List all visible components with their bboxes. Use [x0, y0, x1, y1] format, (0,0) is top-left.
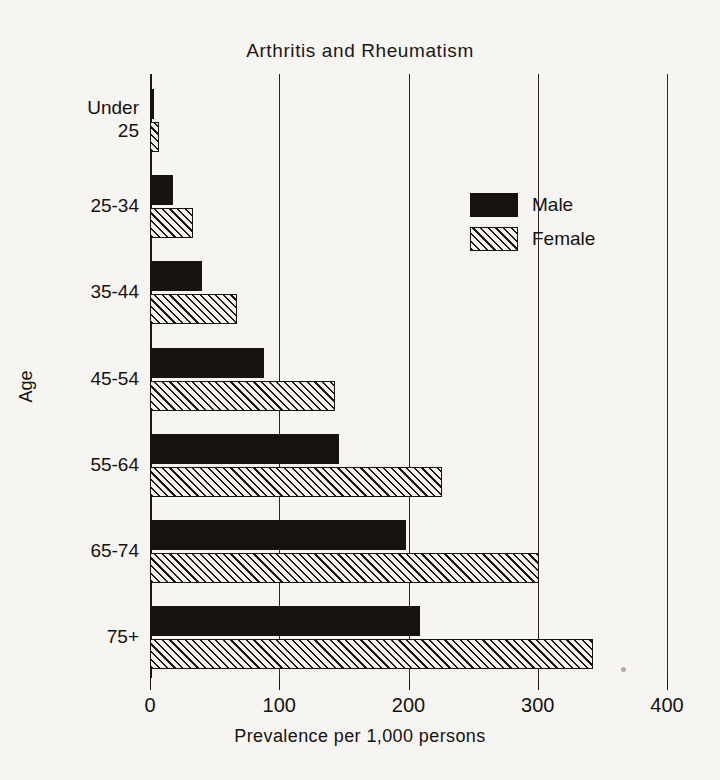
gridline	[279, 74, 280, 678]
x-tick-label: 100	[263, 694, 296, 717]
bar-male	[150, 606, 420, 636]
x-tick-label: 200	[392, 694, 425, 717]
bar-female	[150, 467, 442, 497]
legend-label-male: Male	[532, 194, 573, 216]
x-tick	[150, 678, 151, 690]
chart-legend: Male Female	[470, 190, 595, 258]
x-tick	[667, 678, 668, 690]
bar-female	[150, 208, 193, 238]
x-tick-label: 0	[144, 694, 155, 717]
x-tick	[279, 678, 280, 690]
legend-label-female: Female	[532, 228, 595, 250]
bar-male	[150, 348, 264, 378]
x-tick	[538, 678, 539, 690]
bar-female	[150, 122, 159, 152]
y-axis-label: Age	[16, 347, 37, 427]
bar-female	[150, 381, 335, 411]
bar-female	[150, 294, 237, 324]
bar-female	[150, 553, 539, 583]
legend-swatch-female-icon	[470, 227, 518, 251]
bar-male	[150, 89, 154, 119]
chart-figure: Arthritis and Rheumatism 0100200300400 P…	[0, 0, 720, 780]
bar-male	[150, 261, 202, 291]
gridline	[667, 74, 668, 678]
bar-male	[150, 175, 173, 205]
legend-item-female: Female	[470, 224, 595, 253]
x-tick-label: 300	[521, 694, 554, 717]
y-category-label: 75+	[9, 625, 139, 648]
plot-area	[150, 74, 667, 678]
y-category-label: 65-74	[9, 539, 139, 562]
page-speck-artifact	[621, 667, 626, 672]
y-category-label: 35-44	[9, 280, 139, 303]
bar-male	[150, 434, 339, 464]
x-tick	[409, 678, 410, 690]
gridline	[409, 74, 410, 678]
legend-item-male: Male	[470, 190, 595, 219]
y-category-label: 25-34	[9, 194, 139, 217]
legend-swatch-male-icon	[470, 193, 518, 217]
bar-male	[150, 520, 406, 550]
y-category-label: 55-64	[9, 453, 139, 476]
gridline	[538, 74, 539, 678]
y-category-label: Under 25	[9, 96, 139, 142]
bar-female	[150, 639, 593, 669]
x-tick-label: 400	[650, 694, 683, 717]
